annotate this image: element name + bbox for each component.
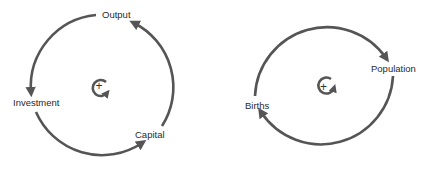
node-births: Births	[245, 100, 270, 111]
polarity-sign: +	[96, 79, 103, 93]
node-capital: Capital	[135, 129, 165, 140]
population-loop-diagram: Population Births +	[245, 27, 416, 144]
loop-polarity-icon: +	[318, 78, 334, 94]
node-investment: Investment	[13, 97, 60, 108]
node-population: Population	[371, 63, 416, 74]
link-investment-to-capital	[36, 112, 142, 155]
node-output: Output	[102, 9, 131, 20]
capital-loop-diagram: Output Investment Capital +	[13, 9, 173, 155]
polarity-sign: +	[320, 80, 327, 94]
loop-polarity-icon: +	[93, 79, 107, 96]
link-capital-to-output	[134, 23, 173, 126]
link-output-to-investment	[31, 15, 96, 92]
causal-loop-diagrams: Output Investment Capital + Population B…	[0, 0, 425, 172]
